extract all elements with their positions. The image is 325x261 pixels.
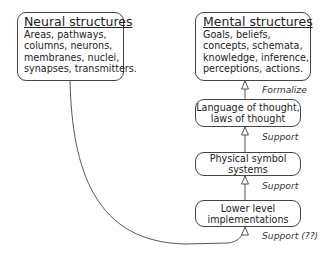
neural-line: membranes, nuclei,: [24, 52, 123, 63]
mental-line: perceptions, actions.: [203, 63, 310, 74]
lower-level-implementations-box: Lower level implementations: [195, 200, 301, 227]
mental-line: knowledge, inference,: [203, 52, 310, 63]
physical-symbol-systems-box: Physical symbol systems: [195, 152, 301, 176]
formalize-label: Formalize: [262, 84, 307, 95]
neural-line: Areas, pathways,: [24, 29, 123, 40]
arrowhead-icon: [242, 127, 249, 135]
mental-line: concepts, schemata,: [203, 40, 310, 51]
mental-title: Mental structures: [203, 15, 310, 29]
neural-structures-box: Neural structures Areas, pathways, colum…: [17, 12, 124, 81]
neural-title: Neural structures: [24, 15, 123, 29]
arrowhead-icon: [242, 227, 249, 235]
mental-structures-box: Mental structures Goals, beliefs, concep…: [195, 12, 311, 81]
neural-line: synapses, transmitters.: [24, 63, 123, 74]
mental-line: Goals, beliefs,: [203, 29, 310, 40]
support-label: Support: [262, 131, 298, 142]
arrowhead-icon: [242, 176, 249, 184]
language-of-thought-box: Language of thought, laws of thought: [195, 99, 301, 127]
neural-line: columns, neurons,: [24, 40, 123, 51]
level-line: laws of thought: [211, 113, 285, 124]
level-line: systems: [228, 164, 268, 175]
level-line: implementations: [207, 214, 288, 225]
support-label: Support: [262, 180, 298, 191]
level-line: Lower level: [221, 203, 276, 214]
level-line: Language of thought,: [196, 102, 299, 113]
arrowhead-icon: [242, 81, 249, 89]
support-uncertain-label: Support (??): [262, 230, 318, 241]
level-line: Physical symbol: [210, 153, 287, 164]
